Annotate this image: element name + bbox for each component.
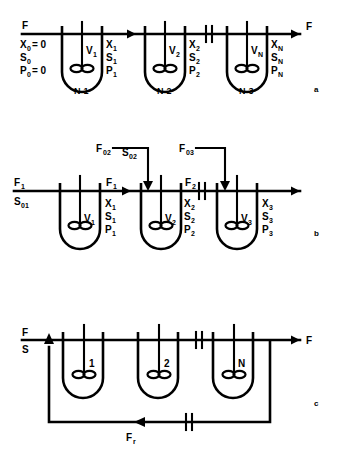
panel-b-intermediate-flow-2: F 2 <box>185 177 196 190</box>
panel-a-inlet-S-sub: 0 <box>27 58 31 65</box>
panel-a-vessel-3-impeller <box>236 65 259 72</box>
panel-a-inlet-X: X <box>20 39 27 50</box>
panel-c-outlet-arrowhead <box>291 336 300 345</box>
panel-a-vessel-3-stage: N-3 <box>239 86 254 96</box>
panel-c-recycle-arrowhead <box>134 417 145 427</box>
panel-a-vessel-2-volume-sub: 2 <box>176 51 180 58</box>
panel-a-inlet-S: S <box>20 52 27 63</box>
panel-b-stream-3-P-sub: 3 <box>269 230 273 237</box>
panel-b-feed-1-labels: F 02 S 02 <box>96 143 137 160</box>
panel-a-stream-N-S: S <box>271 52 278 63</box>
panel-a-stream-2-X-sub: 2 <box>196 45 200 52</box>
panel-a-stream-2-X: X <box>189 39 196 50</box>
panel-c-letter: c <box>314 399 319 408</box>
panel-b-interflow-1: F <box>106 177 112 188</box>
panel-c-recycle-label: F r <box>126 432 136 445</box>
panel-b-feed-line-2 <box>196 148 230 191</box>
panel-b-mid-arrowhead <box>122 187 131 196</box>
panel-b-stream-1-X: X <box>105 198 112 209</box>
panel-a-stream-N-P-sub: N <box>278 71 283 78</box>
panel-c-recycle-flow-sub: r <box>133 438 136 445</box>
panel-b-stream-2-P-sub: 2 <box>191 230 195 237</box>
panel-b-feed-1-S-sub: 02 <box>129 153 137 160</box>
panel-a-stream-N-composition: X N S N P N <box>271 39 283 78</box>
panel-b-stream-1-S: S <box>105 211 112 222</box>
panel-c-vessel-N <box>213 325 253 398</box>
panel-b-stream-3-composition: X 3 S 3 P 3 <box>262 198 273 237</box>
panel-b-inlet-flow-sub: 1 <box>21 183 25 190</box>
panel-b-feed-1-flow: F <box>96 143 102 154</box>
panel-c-vessel-1 <box>63 325 103 398</box>
panel-b-stream-2-X: X <box>184 198 191 209</box>
fermentor-cascade-figure: F F X 0 = 0 S 0 P 0 = 0 V 1 N-1 X 1 S 1 … <box>0 0 337 457</box>
panel-b-feed-2-labels: F 03 <box>179 143 194 156</box>
panel-b-interflow-2: F <box>185 177 191 188</box>
panel-b-stream-2-S-sub: 2 <box>191 217 195 224</box>
panel-a-inlet-P-sub: 0 <box>27 71 31 78</box>
panel-c-inlet-flow: F <box>22 327 28 338</box>
panel-c-vessel-N-number: N <box>238 358 245 369</box>
panel-b-inlet-labels: F 1 S 01 <box>14 177 29 209</box>
panel-b-stream-1-composition: X 1 S 1 P 1 <box>105 198 116 237</box>
panel-a-vessel-3-volume: V <box>251 45 258 56</box>
panel-c-vessel-N-impeller <box>223 371 246 378</box>
panel-b-intermediate-flow-1: F 1 <box>106 177 117 190</box>
panel-c-outlet-flow: F <box>306 335 312 346</box>
panel-a-stream-2-composition: X 2 S 2 P 2 <box>189 39 200 78</box>
panel-a-inlet-composition: X 0 = 0 S 0 P 0 = 0 <box>20 39 47 78</box>
panel-a-stream-N-X-sub: N <box>278 45 283 52</box>
panel-a-mid-arrowhead <box>127 30 136 39</box>
panel-b-vessel-2-volume: V <box>165 213 172 224</box>
panel-b-feed-1-arrowhead <box>143 181 153 191</box>
panel-c-recycle-flow: F <box>126 432 132 443</box>
panel-c: F S F F r 1 2 N c <box>22 325 319 445</box>
panel-b-outlet-arrowhead <box>291 187 300 196</box>
panel-c-vessel-1-impeller <box>73 371 96 378</box>
panel-b-stream-1-S-sub: 1 <box>112 217 116 224</box>
panel-b-interflow-2-sub: 2 <box>192 183 196 190</box>
panel-a-vessel-2-stage: N-2 <box>157 86 172 96</box>
panel-a-stream-1-S: S <box>106 52 113 63</box>
panel-b-inlet-flow: F <box>14 177 20 188</box>
panel-a-vessel-1-stage: N-1 <box>74 86 89 96</box>
panel-a-stream-N-X: X <box>271 39 278 50</box>
panel-a-vessel-1-impeller <box>71 65 94 72</box>
panel-b-feed-1-S: S <box>122 147 129 158</box>
panel-a-inlet-X-sub: 0 <box>27 45 31 52</box>
panel-c-recycle-inlet-arrowhead <box>44 333 54 344</box>
panel-b-vessel-3-volume: V <box>241 213 248 224</box>
panel-a-inlet-X-value: = 0 <box>32 39 47 50</box>
panel-b-letter: b <box>314 229 319 238</box>
panel-b-stream-1-X-sub: 1 <box>112 204 116 211</box>
panel-a-letter: a <box>314 85 319 94</box>
panel-a-inlet-P-value: = 0 <box>32 65 47 76</box>
panel-a-stream-1-X: X <box>106 39 113 50</box>
panel-b-stream-2-P: P <box>184 224 191 235</box>
panel-b-stream-3-X-sub: 3 <box>269 204 273 211</box>
panel-c-recycle-loop <box>44 333 270 430</box>
panel-a-stream-N-S-sub: N <box>278 58 283 65</box>
panel-a-stream-1-composition: X 1 S 1 P 1 <box>106 39 117 78</box>
panel-c-vessel-1-number: 1 <box>89 358 95 369</box>
panel-b-vessel-1-volume: V <box>84 213 91 224</box>
panel-a-vessel-3-volume-sub: N <box>258 51 263 58</box>
panel-b-vessel-2-volume-sub: 2 <box>172 219 176 226</box>
panel-a-stream-2-P: P <box>189 65 196 76</box>
panel-a-stream-2-P-sub: 2 <box>196 71 200 78</box>
panel-b-stream-3-P: P <box>262 224 269 235</box>
panel-b-vessel-1 <box>60 176 100 249</box>
panel-b-stream-2-composition: X 2 S 2 P 2 <box>184 198 195 237</box>
panel-b-stream-1-P-sub: 1 <box>112 230 116 237</box>
panel-a: F F X 0 = 0 S 0 P 0 = 0 V 1 N-1 X 1 S 1 … <box>20 20 319 96</box>
panel-b-interflow-1-sub: 1 <box>113 183 117 190</box>
panel-b-feed-2-arrowhead <box>220 181 230 191</box>
panel-b-feed-1-flow-sub: 02 <box>103 149 111 156</box>
panel-b: F 02 S 02 F 03 F 1 S 01 F 1 F 2 V 1 V <box>14 143 319 249</box>
panel-a-vessel-1-volume-sub: 1 <box>93 51 97 58</box>
panel-a-stream-1-X-sub: 1 <box>113 45 117 52</box>
panel-a-inlet-P: P <box>20 65 27 76</box>
panel-b-feed-2-flow: F <box>179 143 185 154</box>
panel-c-inlet-S: S <box>22 344 29 355</box>
panel-b-vessel-1-volume-sub: 1 <box>91 219 95 226</box>
panel-b-stream-2-X-sub: 2 <box>191 204 195 211</box>
